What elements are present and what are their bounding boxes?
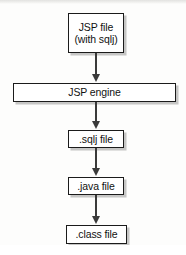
arrow-sqlj-file-to-java-file [95,148,97,169]
node-java-file: .java file [68,177,124,195]
node-jsp-file-label-line1: JSP file [79,21,114,34]
node-jsp-file-label-line2: (with sqlj) [74,33,117,46]
page-top-edge-artifact [0,0,186,4]
arrow-java-file-to-class-file [95,195,97,217]
flowchart-canvas: JSP file (with sqlj) JSP engine .sqlj fi… [0,0,186,255]
node-jsp-engine-label: JSP engine [68,86,121,99]
node-jsp-engine: JSP engine [13,83,176,102]
page-bottom-edge-artifact [0,245,186,255]
node-java-file-label: .java file [77,180,115,193]
node-sqlj-file: .sqlj file [68,130,124,148]
node-class-file: .class file [66,225,127,244]
node-class-file-label: .class file [75,228,117,241]
arrow-jsp-engine-to-sqlj-file [95,102,97,122]
arrow-jsp-file-to-jsp-engine [95,53,97,75]
node-jsp-file: JSP file (with sqlj) [68,13,124,53]
node-sqlj-file-label: .sqlj file [79,133,113,146]
